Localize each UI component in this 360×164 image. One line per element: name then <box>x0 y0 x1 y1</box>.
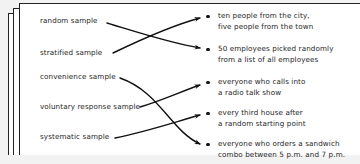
arrow-stratified-to-city-town <box>113 18 200 53</box>
arrow-random-to-employees <box>107 23 200 48</box>
matching-arrows <box>0 0 360 164</box>
arrow-systematic-to-third-house <box>115 115 200 138</box>
